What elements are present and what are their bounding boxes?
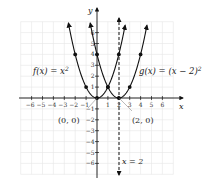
svg-text:−2: −2	[69, 101, 78, 108]
y-axis-label: y	[87, 6, 93, 15]
svg-text:2: 2	[91, 72, 95, 79]
data-point	[128, 85, 132, 89]
svg-text:1: 1	[91, 83, 95, 90]
svg-text:3: 3	[128, 101, 132, 108]
g-function-label: g(x) = (x − 2)2	[139, 65, 202, 76]
x-axis-label: x	[179, 102, 184, 111]
f-function-label: f(x) = x2	[32, 65, 69, 76]
svg-text:6: 6	[160, 101, 164, 108]
origin-point-label: (0, 0)	[58, 116, 80, 125]
svg-text:−4: −4	[47, 101, 56, 108]
svg-text:−3: −3	[86, 127, 95, 134]
svg-text:−6: −6	[86, 159, 95, 166]
svg-text:3: 3	[91, 61, 95, 68]
svg-text:4: 4	[91, 50, 95, 57]
data-point	[84, 85, 88, 89]
svg-text:4: 4	[139, 101, 143, 108]
line-x-equals-2-label: x = 2	[122, 157, 143, 166]
svg-text:−6: −6	[26, 101, 35, 108]
data-point	[73, 53, 77, 57]
data-point	[95, 53, 99, 57]
svg-text:1: 1	[106, 101, 110, 108]
data-point	[117, 53, 121, 57]
vertex-g-label: (2, 0)	[132, 116, 154, 125]
svg-text:−5: −5	[86, 149, 95, 156]
data-point	[106, 85, 110, 89]
svg-text:−5: −5	[37, 101, 46, 108]
svg-text:−2: −2	[86, 116, 95, 123]
data-point	[139, 53, 143, 57]
svg-text:5: 5	[150, 101, 154, 108]
function-graph: −6−5−4−3−2−1123456−6−5−4−3−2−1123456 y x…	[0, 0, 211, 196]
svg-text:−3: −3	[58, 101, 67, 108]
svg-text:−4: −4	[86, 138, 95, 145]
